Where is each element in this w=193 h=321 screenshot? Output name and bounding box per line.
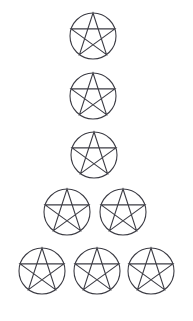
pentacle-arrangement-svg (0, 0, 193, 321)
background (0, 0, 193, 321)
figure-canvas (0, 0, 193, 321)
